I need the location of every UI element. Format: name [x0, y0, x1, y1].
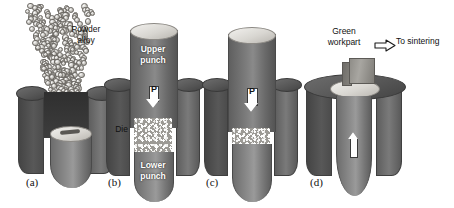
lower-punch-top-face-a: [50, 126, 92, 142]
caption-c: (c): [206, 176, 218, 188]
upper-punch-label: Upper punch: [132, 44, 174, 65]
die-wall-left: [204, 84, 228, 176]
ejection-arrow-shaft: [350, 138, 358, 158]
upper-punch-top-face-c: [228, 27, 276, 44]
powder-metallurgy-figure: Powder alloy (a) P Upper punch Die Lower…: [0, 0, 454, 208]
powder-grain: [86, 12, 91, 17]
to-sintering-label: To sintering: [396, 36, 454, 47]
green-workpart: [349, 58, 375, 84]
force-arrow-head-c: [244, 103, 258, 112]
caption-d: (d): [310, 176, 323, 188]
die-rim-right: [272, 78, 302, 92]
die-wall-left: [18, 92, 44, 174]
die-label: Die: [102, 124, 128, 135]
caption-b: (b): [108, 176, 121, 188]
lower-punch-c: [232, 144, 272, 202]
die-wall-right: [176, 84, 200, 176]
ejection-arrow-head: [348, 132, 358, 139]
powder-grain: [26, 19, 32, 25]
force-label-b: P: [149, 84, 159, 95]
force-label-c: P: [247, 86, 257, 97]
panel-b-powder-in-die: P Upper punch Die Lower punch (b): [104, 0, 214, 208]
powder-alloy-label: Powder alloy: [62, 24, 110, 45]
powder-grain: [79, 65, 85, 71]
caption-a: (a): [26, 176, 38, 188]
lower-punch-label: Lower punch: [132, 160, 174, 181]
upper-punch-c: [228, 34, 276, 132]
panel-a-fill-die: Powder alloy (a): [0, 0, 120, 208]
die-wall-right: [274, 84, 298, 176]
upper-punch-top-face-b: [130, 23, 178, 40]
to-sintering-arrow-icon: [374, 38, 396, 51]
force-arrow-head-b: [146, 99, 160, 108]
green-workpart-label: Green workpart: [318, 26, 370, 47]
panel-d-ejection: Green workpart To sintering (d): [300, 0, 454, 208]
panel-c-compaction: P (c): [200, 0, 310, 208]
